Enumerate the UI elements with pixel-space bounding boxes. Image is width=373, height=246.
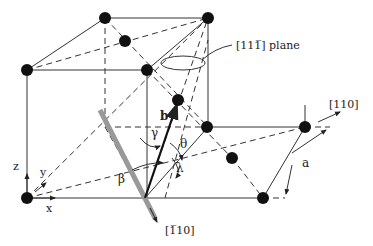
angle-arcs [132,138,182,178]
x-axis-label: x [46,202,53,215]
plane-leader-line [202,45,232,60]
plane-marker-ellipse [161,56,205,70]
b-label: b [160,109,168,123]
a-label: a [302,156,309,170]
theta-label: θ [180,137,187,151]
dir-1m10-label: [1̅10] [165,224,195,237]
a-arrow-down [286,165,292,194]
plane-label: [111̅] plane [236,39,300,52]
lambda-label: λ [176,161,184,175]
z-axis-label: z [13,160,19,173]
beta-label: β [118,172,125,186]
gamma-label: γ [151,126,158,140]
a-arrow-up [292,130,326,153]
dir-110-arrow [318,112,340,122]
y-axis-label: y [39,166,47,179]
crystal-slip-diagram: [111̅] plane [110] [1̅10] b γ θ β λ a x … [0,0,373,246]
dir-110-label: [110] [329,98,359,111]
